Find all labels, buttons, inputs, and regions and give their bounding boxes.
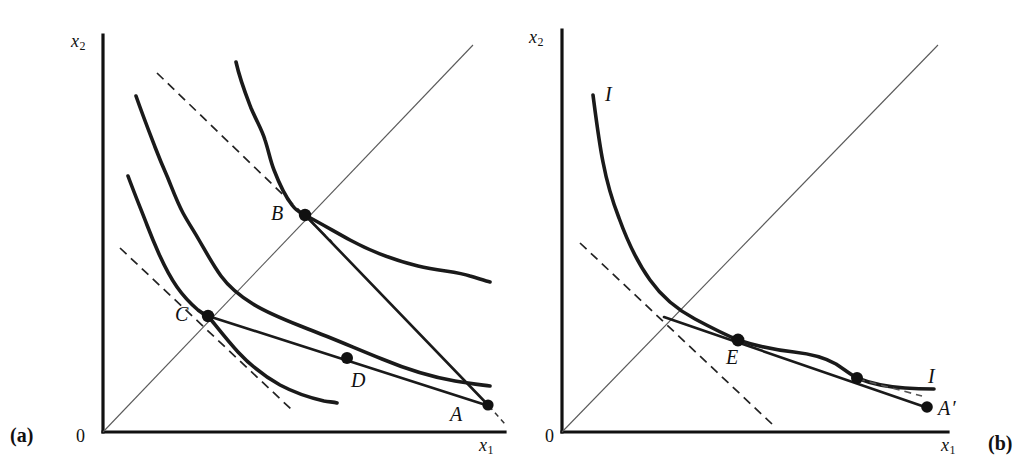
panel-a: x2 x1 0 (a) B C D A [0,0,515,470]
panel-b-x-axis-label: x1 [941,436,956,456]
panel-a-indifference-curve-upper [236,62,490,282]
panel-b: x2 x1 0 (b) I I E A′ [515,0,1033,470]
panel-a-point-A-marker [482,399,493,410]
panel-b-indifference-curve [593,95,934,389]
panel-b-y-axis-label: x2 [529,28,544,48]
panel-a-point-C-label: C [175,304,188,324]
panel-b-point-Aprime-mark: ′ [951,397,955,419]
panel-b-point-F-marker [851,372,863,384]
panel-a-y-axis-label: x2 [71,32,86,52]
panel-b-curve-label-left: I [605,84,612,104]
panel-b-origin-label: 0 [545,427,554,445]
panel-a-point-D-label: D [351,370,365,390]
panel-b-budget-line [664,317,928,408]
panel-a-caption: (a) [10,425,33,445]
panel-b-diagonal-ray [562,45,938,432]
panel-a-x-axis-label: x1 [479,436,494,456]
panel-a-dashed-line-lower [120,248,292,410]
panel-b-point-Aprime-label: A′ [938,398,956,418]
panel-a-axes [103,35,505,432]
panel-a-point-B-label: B [271,203,283,223]
panel-b-point-Aprime-marker [921,401,933,413]
panel-a-plot [0,0,515,470]
panel-a-point-B-marker [299,209,311,221]
panel-a-point-D-marker [341,352,353,364]
panel-b-caption: (b) [988,433,1012,453]
panel-a-diagonal-ray [103,45,473,432]
panel-b-point-Aprime-letter: A [938,397,950,419]
figure-root: x2 x1 0 (a) B C D A [0,0,1033,470]
panel-b-point-E-marker [732,334,745,347]
panel-a-point-A-label: A [450,404,462,424]
panel-b-point-E-label: E [726,347,738,367]
panel-b-dashed-line [580,243,772,424]
panel-b-curve-label-right: I [928,366,935,386]
panel-a-point-C-marker [202,310,214,322]
panel-a-origin-label: 0 [76,427,85,445]
